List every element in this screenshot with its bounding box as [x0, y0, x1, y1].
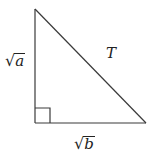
right-angle-marker [35, 108, 50, 123]
radicand-b: b [83, 136, 95, 152]
vertical-leg-label: √a [5, 52, 25, 69]
hypotenuse-label: T [106, 46, 116, 61]
hypotenuse [35, 9, 146, 123]
sqrt-a-expression: √a [5, 52, 25, 69]
radicand-a: a [14, 53, 25, 69]
sqrt-b-expression: √b [74, 135, 95, 152]
right-triangle-diagram [0, 0, 152, 155]
horizontal-leg-label: √b [74, 135, 95, 152]
